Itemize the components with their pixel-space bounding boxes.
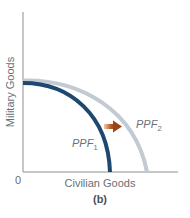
ppf2-label: PPF2: [136, 118, 162, 133]
y-axis-label: Military Goods: [4, 56, 16, 127]
x-axis-label: Civilian Goods: [65, 177, 136, 189]
ppf2-curve: [23, 80, 147, 172]
ppf-chart: PPF2 PPF1 Military Goods 0 Civilian Good…: [0, 0, 190, 218]
shift-arrow-icon: [104, 121, 122, 133]
ppf1-label: PPF1: [72, 137, 98, 152]
ppf1-curve: [23, 83, 110, 172]
panel-label: (b): [93, 193, 107, 205]
origin-label: 0: [15, 174, 21, 186]
